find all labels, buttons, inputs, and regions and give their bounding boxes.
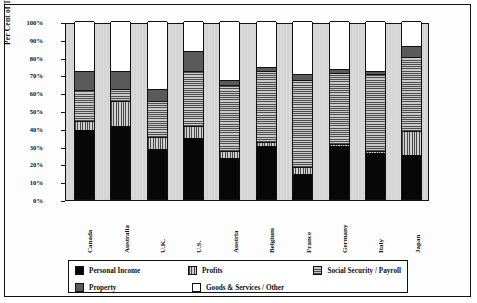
bar-austria (219, 22, 240, 200)
segment-property (257, 67, 276, 71)
segment-profits (184, 126, 203, 138)
bar-belgium (256, 22, 277, 200)
y-axis-title: Per Cent of Tax Revenue (3, 0, 12, 63)
legend-label-profits: Profits (202, 267, 223, 275)
segment-property (75, 71, 94, 91)
segment-property (402, 46, 421, 57)
y-tick-label: 50% (9, 109, 43, 116)
bar-canada (74, 22, 95, 200)
segment-personal-income (75, 130, 94, 199)
y-tick-label: 70% (9, 73, 43, 80)
segment-personal-income (184, 138, 203, 199)
y-tick-label: 60% (9, 91, 43, 98)
x-label-italy: Italy (377, 193, 385, 253)
y-tick-mark (61, 201, 65, 202)
segment-social-security-payroll (366, 74, 385, 151)
legend-swatch-social-security (313, 266, 322, 275)
segment-goods-services-other (148, 21, 167, 89)
segment-goods-services-other (366, 21, 385, 71)
segment-profits (402, 131, 421, 154)
segment-goods-services-other (184, 21, 203, 51)
x-label-canada: Canada (86, 193, 94, 253)
legend-label-goods-services: Goods & Services / Other (206, 284, 284, 292)
x-label-australia: Australia (123, 193, 131, 253)
chart-legend: Personal Income Profits Social Security … (68, 260, 408, 293)
segment-goods-services-other (257, 21, 276, 67)
legend-swatch-profits (188, 266, 197, 275)
segment-goods-services-other (111, 21, 130, 71)
legend-item-goods-services: Goods & Services / Other (192, 283, 284, 292)
segment-goods-services-other (293, 21, 312, 74)
legend-row-2: Property Goods & Services / Other (75, 281, 401, 294)
segment-property (184, 51, 203, 71)
segment-goods-services-other (330, 21, 349, 69)
legend-item-social-security: Social Security / Payroll (313, 266, 401, 275)
x-label-germany: Germany (341, 193, 349, 253)
segment-property (148, 89, 167, 101)
segment-social-security-payroll (184, 71, 203, 126)
legend-label-property: Property (89, 284, 116, 292)
segment-social-security-payroll (111, 89, 130, 101)
y-tick-label: 100% (9, 20, 43, 27)
segment-goods-services-other (75, 21, 94, 71)
bar-france (292, 22, 313, 200)
segment-personal-income (148, 149, 167, 199)
segment-personal-income (111, 126, 130, 199)
x-label-japan: Japan (414, 193, 422, 253)
y-tick-label: 40% (9, 127, 43, 134)
segment-social-security-payroll (402, 57, 421, 132)
segment-property (220, 80, 239, 85)
bar-japan (401, 22, 422, 200)
segment-personal-income (330, 146, 349, 199)
segment-social-security-payroll (293, 80, 312, 167)
legend-swatch-property (75, 283, 84, 292)
x-label-austria: Austria (232, 193, 240, 253)
y-tick-label: 20% (9, 162, 43, 169)
legend-item-property: Property (75, 283, 192, 292)
chart-frame: Per Cent of Tax Revenue 100%90%80%70%60%… (4, 4, 471, 297)
legend-swatch-goods-services (192, 283, 201, 292)
segment-social-security-payroll (330, 73, 349, 144)
segment-goods-services-other (220, 21, 239, 80)
segment-profits (111, 101, 130, 126)
segment-property (366, 71, 385, 75)
x-label-uk: U.K. (159, 193, 167, 253)
segment-personal-income (257, 146, 276, 199)
y-tick-label: 80% (9, 56, 43, 63)
segment-social-security-payroll (257, 71, 276, 142)
legend-swatch-personal-income (75, 266, 84, 275)
segment-goods-services-other (402, 21, 421, 46)
segment-profits (330, 144, 349, 146)
x-label-us: U.S. (195, 193, 203, 253)
segment-property (111, 71, 130, 89)
segment-property (330, 69, 349, 73)
plot-area (65, 23, 429, 201)
segment-profits (257, 142, 276, 146)
segment-social-security-payroll (75, 90, 94, 120)
y-tick-label: 30% (9, 145, 43, 152)
y-tick-label: 10% (9, 180, 43, 187)
segment-social-security-payroll (148, 101, 167, 137)
legend-label-personal-income: Personal Income (89, 267, 140, 275)
bar-uk (147, 22, 168, 200)
segment-social-security-payroll (220, 85, 239, 151)
segment-profits (75, 121, 94, 130)
y-tick-label: 90% (9, 38, 43, 45)
segment-profits (148, 137, 167, 149)
segment-profits (366, 151, 385, 153)
legend-item-personal-income: Personal Income (75, 266, 188, 275)
legend-item-profits: Profits (188, 266, 314, 275)
x-label-belgium: Belgium (268, 193, 276, 253)
bar-germany (329, 22, 350, 200)
legend-label-social-security: Social Security / Payroll (327, 267, 401, 275)
bar-italy (365, 22, 386, 200)
bar-us (183, 22, 204, 200)
segment-profits (293, 167, 312, 174)
y-tick-label: 0% (9, 198, 43, 205)
x-label-france: France (305, 193, 313, 253)
legend-row-1: Personal Income Profits Social Security … (75, 264, 401, 277)
bar-australia (110, 22, 131, 200)
segment-profits (220, 151, 239, 158)
segment-property (293, 74, 312, 79)
